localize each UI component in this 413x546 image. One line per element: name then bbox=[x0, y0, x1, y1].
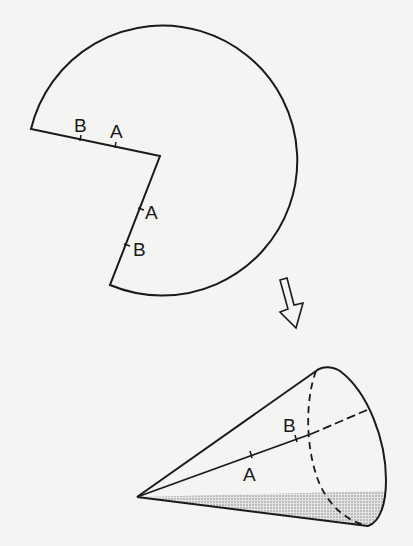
seam-line bbox=[137, 434, 311, 497]
label-sector-B2: B bbox=[133, 239, 146, 260]
tick-A1 bbox=[115, 142, 116, 148]
tick-cone-B bbox=[295, 435, 297, 442]
flat-sector bbox=[31, 26, 297, 296]
shaded-region bbox=[137, 491, 385, 526]
diagram-canvas: B A A B B A bbox=[0, 0, 413, 546]
tick-cone-A bbox=[250, 451, 252, 458]
seam-line-back bbox=[311, 410, 367, 434]
label-sector-A2: A bbox=[145, 202, 158, 223]
sector-outline bbox=[31, 26, 297, 296]
label-cone-B: B bbox=[283, 415, 296, 436]
label-sector-A1: A bbox=[110, 121, 123, 142]
down-arrow-icon bbox=[280, 278, 303, 328]
label-sector-B1: B bbox=[74, 115, 87, 136]
cone bbox=[137, 367, 386, 526]
label-cone-A: A bbox=[243, 464, 256, 485]
